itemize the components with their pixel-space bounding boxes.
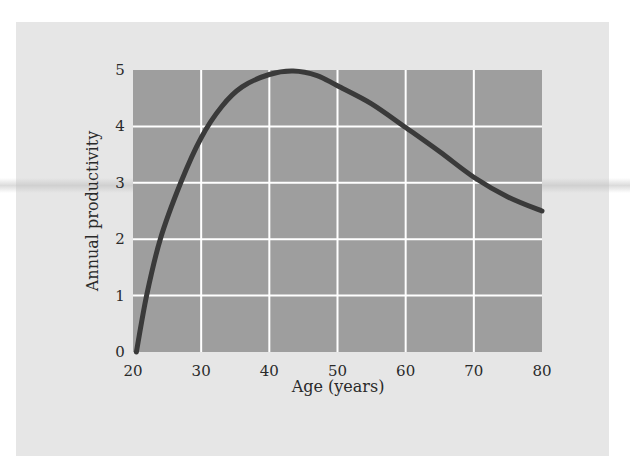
x-tick-label: 70 [464, 362, 483, 380]
x-tick-label: 80 [532, 362, 551, 380]
y-tick-label: 2 [115, 230, 125, 248]
x-tick-label: 40 [260, 362, 279, 380]
y-axis-ticks: 012345 [115, 61, 125, 361]
x-axis-label: Age (years) [291, 377, 385, 396]
y-axis-label: Annual productivity [83, 131, 102, 292]
y-tick-label: 0 [115, 343, 125, 361]
x-tick-label: 20 [123, 362, 142, 380]
x-tick-label: 30 [192, 362, 211, 380]
y-tick-label: 5 [115, 61, 125, 79]
y-tick-label: 3 [115, 174, 125, 192]
x-tick-label: 60 [396, 362, 415, 380]
line-chart: 20304050607080 012345 Age (years) Annual… [0, 0, 630, 476]
y-tick-label: 4 [115, 117, 125, 135]
y-tick-label: 1 [115, 287, 125, 305]
